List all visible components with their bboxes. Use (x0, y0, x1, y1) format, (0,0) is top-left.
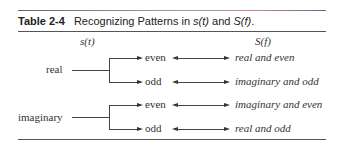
double-arrow-shaft (176, 58, 226, 59)
branch-arm (109, 105, 139, 106)
table-bottom-rule (18, 139, 326, 140)
branch-arm (109, 82, 139, 83)
arrow-head-icon (137, 103, 143, 107)
header-rule (18, 31, 326, 32)
transform-label: imaginary and odd (235, 75, 319, 87)
branch-vertical (109, 58, 110, 82)
table-top-rule (18, 10, 326, 11)
transform-label: real and even (235, 51, 294, 63)
table-caption: Table 2-4Recognizing Patterns in s(t) an… (18, 15, 254, 27)
symmetry-label: even (145, 98, 166, 110)
arrow-head-icon (137, 80, 143, 84)
transform-label: real and odd (235, 122, 291, 134)
column-header-frequency-domain: S(f) (255, 35, 271, 47)
group-label-imaginary: imaginary (18, 111, 63, 123)
arrow-head-icon (137, 56, 143, 60)
double-arrow-right-icon (224, 80, 230, 84)
double-arrow-right-icon (224, 127, 230, 131)
arrow-head-icon (137, 127, 143, 131)
double-arrow-right-icon (224, 56, 230, 60)
double-arrow-shaft (176, 129, 226, 130)
branch-arm (109, 58, 139, 59)
double-arrow-shaft (176, 105, 226, 106)
branch-vertical (109, 105, 110, 129)
column-header-time-domain: s(t) (80, 35, 95, 47)
group-label-real: real (46, 63, 62, 75)
table-number: Table 2-4 (18, 15, 65, 27)
double-arrow-shaft (176, 82, 226, 83)
symmetry-label: odd (145, 75, 162, 87)
branch-stem (72, 117, 109, 118)
branch-arm (109, 129, 139, 130)
double-arrow-right-icon (224, 103, 230, 107)
branch-stem (72, 70, 109, 71)
symmetry-label: even (145, 51, 166, 63)
transform-label: imaginary and even (235, 98, 322, 110)
symmetry-label: odd (145, 122, 162, 134)
